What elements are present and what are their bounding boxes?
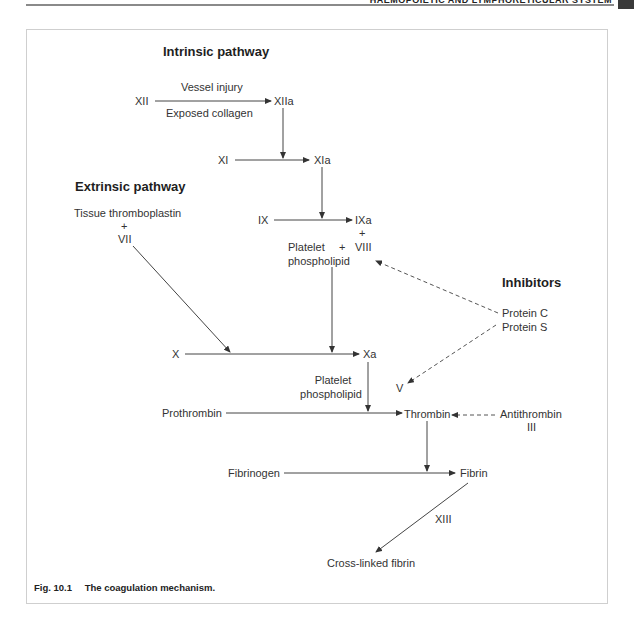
label-platelet-2: Platelet <box>300 374 366 387</box>
label-phospholipid-1: phospholipid <box>288 255 350 268</box>
node-viii: VIII <box>355 241 372 254</box>
label-xiii: XIII <box>435 513 452 526</box>
node-cross-linked-fibrin: Cross-linked fibrin <box>327 557 415 570</box>
node-xii: XII <box>135 95 148 108</box>
node-thrombin: Thrombin <box>404 408 450 421</box>
label-vessel-injury: Vessel injury <box>181 81 243 94</box>
node-xi: XI <box>218 154 228 167</box>
node-fibrinogen: Fibrinogen <box>228 467 280 480</box>
figure-caption-text: The coagulation mechanism. <box>85 582 215 593</box>
plus-platelet: + <box>339 241 345 254</box>
label-protein-s: Protein S <box>502 321 547 334</box>
label-antithrombin: Antithrombin <box>500 408 562 421</box>
node-prothrombin: Prothrombin <box>162 407 222 420</box>
heading-inhibitors: Inhibitors <box>502 276 561 289</box>
inhibit-proteins-v <box>408 325 496 383</box>
node-xia: XIa <box>314 154 331 167</box>
label-phospholipid-2: phospholipid <box>296 388 366 401</box>
arrow-vii-diagonal <box>133 246 230 352</box>
label-tissue-thromboplastin: Tissue thromboplastin <box>74 207 181 220</box>
label-antithrombin-iii: III <box>527 421 536 434</box>
node-ixa: IXa <box>355 214 372 227</box>
node-x: X <box>172 348 179 361</box>
label-platelet-1: Platelet <box>288 241 325 254</box>
node-vii: VII <box>118 233 131 246</box>
node-xiia: XIIa <box>274 95 294 108</box>
node-xa: Xa <box>363 348 376 361</box>
inhibit-proteinc-viii <box>376 261 498 313</box>
label-exposed-collagen: Exposed collagen <box>166 107 253 120</box>
node-ix: IX <box>258 214 268 227</box>
figure-caption: Fig. 10.1 The coagulation mechanism. <box>34 582 215 593</box>
heading-extrinsic-pathway: Extrinsic pathway <box>75 180 186 193</box>
plus-tissue-vii: + <box>121 220 127 233</box>
arrow-fibrin-crosslinked <box>376 483 468 552</box>
figure-number: Fig. 10.1 <box>34 582 72 593</box>
heading-intrinsic-pathway: Intrinsic pathway <box>163 45 269 58</box>
label-protein-c: Protein C <box>502 307 548 320</box>
node-fibrin: Fibrin <box>460 467 488 480</box>
node-v: V <box>396 382 403 395</box>
plus-ixa-viii: + <box>359 227 365 240</box>
